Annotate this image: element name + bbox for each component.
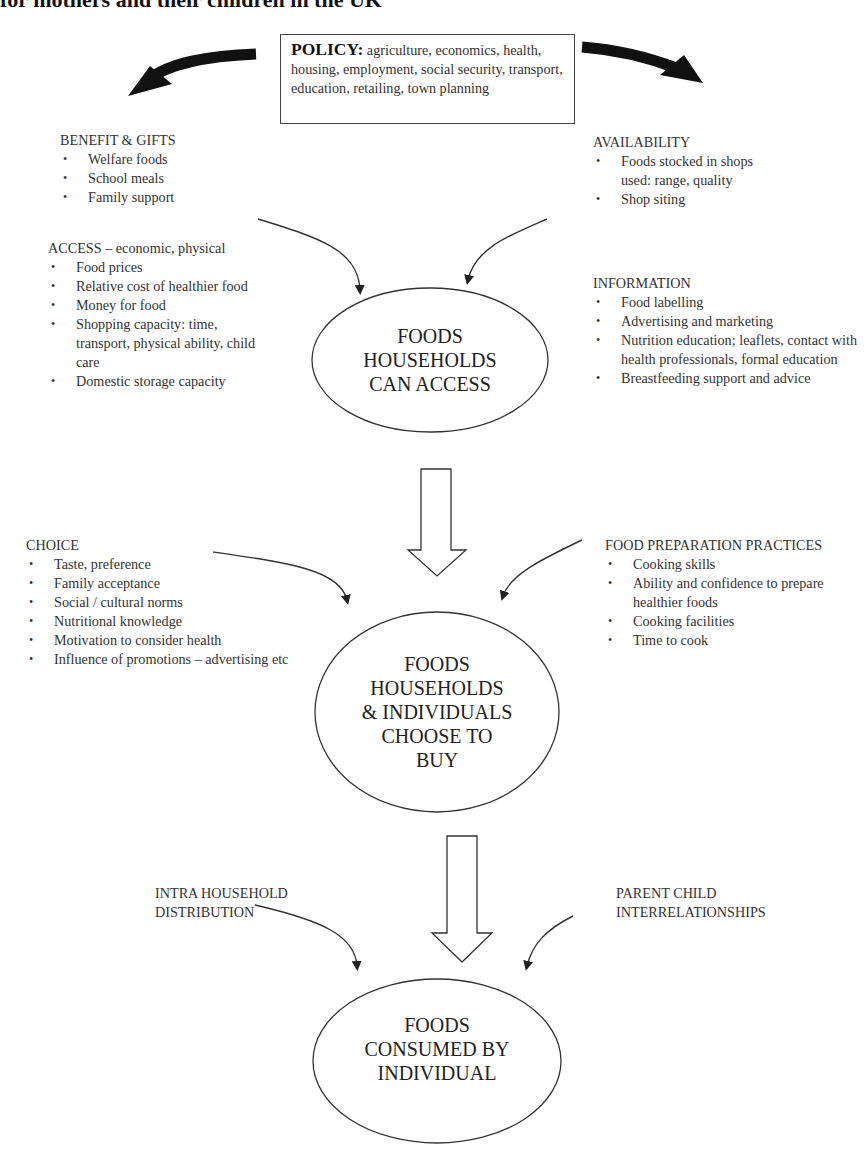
food-preparation-block: FOOD PREPARATION PRACTICES Cooking skill… <box>605 536 867 650</box>
intra-household-heading-line2: DISTRIBUTION <box>155 903 355 922</box>
list-item: Foods stocked in shops used: range, qual… <box>593 152 773 190</box>
list-item: Influence of promotions – advertising et… <box>26 650 346 669</box>
access-heading: ACCESS – economic, physical <box>48 239 258 258</box>
benefit-to-access-arrow <box>258 219 360 290</box>
benefit-gifts-block: BENEFIT & GIFTS Welfare foods School mea… <box>60 131 280 207</box>
list-item: School meals <box>60 169 280 188</box>
list-item: Breastfeeding support and advice <box>593 369 863 388</box>
list-item: Cooking facilities <box>605 612 867 631</box>
list-item: Shop siting <box>593 190 773 209</box>
policy-right-thick-arrow <box>582 47 703 83</box>
availability-block: AVAILABILITY Foods stocked in shops used… <box>593 133 773 209</box>
choose-node-line: BUY <box>317 748 557 772</box>
list-item: Relative cost of healthier food <box>48 277 258 296</box>
access-to-choose-block-arrow <box>408 469 466 576</box>
access-block: ACCESS – economic, physical Food prices … <box>48 239 258 391</box>
list-item: Family support <box>60 188 280 207</box>
list-item: Time to cook <box>605 631 867 650</box>
list-item: Advertising and marketing <box>593 312 863 331</box>
choose-node: FOODS HOUSEHOLDS & INDIVIDUALS CHOOSE TO… <box>317 652 557 772</box>
list-item: Nutritional knowledge <box>26 612 346 631</box>
list-item: Money for food <box>48 296 258 315</box>
choose-node-line: HOUSEHOLDS <box>317 676 557 700</box>
list-item: Domestic storage capacity <box>48 372 258 391</box>
choose-to-consumed-block-arrow <box>432 836 492 962</box>
list-item: Taste, preference <box>26 555 346 574</box>
parent-child-heading-line2: INTERRELATIONSHIPS <box>616 903 836 922</box>
intra-household-block: INTRA HOUSEHOLD DISTRIBUTION <box>155 884 355 922</box>
availability-heading: AVAILABILITY <box>593 133 773 152</box>
policy-label: POLICY: <box>291 39 363 59</box>
access-node-line: CAN ACCESS <box>330 372 530 396</box>
list-item: Shopping capacity: time, transport, phys… <box>48 315 258 372</box>
information-heading: INFORMATION <box>593 274 863 293</box>
policy-box: POLICY: agriculture, economics, health, … <box>280 34 575 124</box>
choice-heading: CHOICE <box>26 536 346 555</box>
parent-child-heading-line1: PARENT CHILD <box>616 884 836 903</box>
policy-left-thick-arrow <box>128 54 256 96</box>
list-item: Nutrition education; leaflets, contact w… <box>593 331 863 369</box>
list-item: Cooking skills <box>605 555 867 574</box>
parent-child-block: PARENT CHILD INTERRELATIONSHIPS <box>616 884 836 922</box>
list-item: Ability and confidence to prepare health… <box>605 574 867 612</box>
consumed-node: FOODS CONSUMED BY INDIVIDUAL <box>327 1013 547 1085</box>
list-item: Social / cultural norms <box>26 593 346 612</box>
parent-child-to-consumed-arrow <box>527 916 573 966</box>
preparation-to-choose-arrow <box>503 540 582 596</box>
choice-block: CHOICE Taste, preference Family acceptan… <box>26 536 346 669</box>
list-item: Family acceptance <box>26 574 346 593</box>
availability-to-access-arrow <box>468 219 547 280</box>
choose-node-line: CHOOSE TO <box>317 724 557 748</box>
consumed-node-line: CONSUMED BY <box>327 1037 547 1061</box>
list-item: Welfare foods <box>60 150 280 169</box>
access-node-line: HOUSEHOLDS <box>330 348 530 372</box>
list-item: Food prices <box>48 258 258 277</box>
access-node: FOODS HOUSEHOLDS CAN ACCESS <box>330 324 530 396</box>
intra-household-heading-line1: INTRA HOUSEHOLD <box>155 884 355 903</box>
choose-node-line: & INDIVIDUALS <box>317 700 557 724</box>
food-preparation-heading: FOOD PREPARATION PRACTICES <box>605 536 867 555</box>
consumed-node-line: INDIVIDUAL <box>327 1061 547 1085</box>
choose-node-line: FOODS <box>317 652 557 676</box>
benefit-gifts-heading: BENEFIT & GIFTS <box>60 131 280 150</box>
list-item: Motivation to consider health <box>26 631 346 650</box>
list-item: Food labelling <box>593 293 863 312</box>
information-block: INFORMATION Food labelling Advertising a… <box>593 274 863 388</box>
access-node-line: FOODS <box>330 324 530 348</box>
consumed-node-line: FOODS <box>327 1013 547 1037</box>
